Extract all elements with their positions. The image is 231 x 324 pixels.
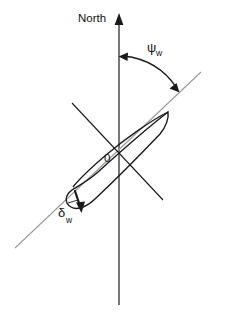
rudder-angle-label: δ w xyxy=(58,205,73,225)
rudder xyxy=(68,191,85,213)
ship-heading-diagram: North 0 ψ w δ w xyxy=(0,0,231,324)
heading-arc-path xyxy=(124,56,176,87)
arc-arrowhead-north-icon xyxy=(119,53,129,62)
heading-angle-arc xyxy=(119,53,180,93)
heading-angle-subscript: w xyxy=(155,48,163,58)
ship-hull xyxy=(66,112,168,208)
north-label: North xyxy=(78,12,106,24)
rudder-angle-subscript: w xyxy=(65,215,73,225)
north-arrowhead-icon xyxy=(115,13,124,25)
body-transverse-axis xyxy=(72,103,163,200)
diagram-canvas: North 0 ψ w δ w xyxy=(0,0,231,324)
heading-angle-label: ψ w xyxy=(147,40,163,58)
rudder-angle-symbol: δ xyxy=(58,205,65,220)
hull-outline xyxy=(66,112,168,208)
origin-label: 0 xyxy=(104,152,110,164)
heading-angle-symbol: ψ xyxy=(147,40,156,55)
